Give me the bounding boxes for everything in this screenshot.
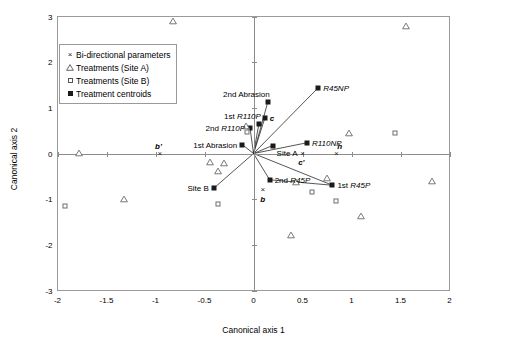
point-label: 2nd R110P xyxy=(206,124,245,133)
data-point-open-square xyxy=(392,131,397,136)
point-label: 2nd R45P xyxy=(275,175,311,184)
data-point-x-marker: × xyxy=(260,186,265,194)
y-tick-label: 2 xyxy=(36,58,53,67)
data-point-x-marker: × xyxy=(158,150,163,158)
x-tick-label: 0.5 xyxy=(297,296,308,305)
x-tick-label: -1.5 xyxy=(100,296,114,305)
legend-item-label: Bi-directional parameters xyxy=(76,50,170,60)
point-label: b' xyxy=(155,141,162,150)
data-point-centroid xyxy=(211,186,216,191)
legend-open-square-icon xyxy=(64,78,76,83)
legend-item-label: Treatments (Site B) xyxy=(76,76,149,86)
data-point-open-triangle xyxy=(220,159,228,166)
point-label: c' xyxy=(298,157,304,166)
data-point-open-triangle xyxy=(214,167,222,174)
data-point-open-square xyxy=(310,189,315,194)
x-tick-label: 2 xyxy=(447,296,451,305)
legend-x-icon: × xyxy=(64,50,76,59)
data-point-open-square xyxy=(245,129,250,134)
point-label: b xyxy=(260,195,265,204)
legend-item: Treatments (Site B) xyxy=(64,74,170,87)
data-point-open-triangle xyxy=(323,174,331,181)
data-point-x-marker: × xyxy=(334,150,339,158)
y-tick-label: 1 xyxy=(36,103,53,112)
data-point-open-triangle xyxy=(169,18,177,25)
legend-filled-square-icon xyxy=(64,91,76,96)
x-tick xyxy=(107,152,108,157)
point-label: Site A xyxy=(277,148,298,157)
y-tick-label: 0 xyxy=(36,149,53,158)
legend-item: Treatment centroids xyxy=(64,87,170,100)
data-point-open-triangle xyxy=(120,195,128,202)
y-tick-label: -2 xyxy=(36,240,53,249)
data-point-open-triangle xyxy=(345,129,353,136)
point-label: R45NP xyxy=(323,83,349,92)
point-label: 1st R110P xyxy=(224,112,261,121)
data-point-open-square xyxy=(216,201,221,206)
x-tick xyxy=(401,152,402,157)
data-point-open-triangle xyxy=(287,231,295,238)
legend-item: Treatments (Site A) xyxy=(64,61,170,74)
chart-canvas: -2-1.5-1-0.500.511.52-3-2-10123 ×××× b'c… xyxy=(0,0,507,347)
data-point-centroid xyxy=(304,140,309,145)
y-tick xyxy=(252,245,257,246)
data-point-centroid xyxy=(262,116,267,121)
x-tick xyxy=(156,152,157,157)
point-label: 1st Abrasion xyxy=(193,140,237,149)
point-label: c xyxy=(270,114,274,123)
x-tick xyxy=(450,152,451,157)
point-label: R110NP xyxy=(312,138,342,147)
x-tick xyxy=(58,152,59,157)
x-tick xyxy=(205,152,206,157)
data-point-centroid xyxy=(270,143,275,148)
y-tick xyxy=(252,62,257,63)
data-point-open-square xyxy=(334,199,339,204)
data-point-centroid xyxy=(316,85,321,90)
2nd-r45p-vector xyxy=(254,154,270,180)
point-label: 2nd Abrasion xyxy=(223,90,270,99)
data-point-centroid xyxy=(267,177,272,182)
y-axis-title: Canonical axis 2 xyxy=(9,99,19,219)
y-tick-label: 3 xyxy=(36,12,53,21)
y-tick xyxy=(252,199,257,200)
y-tick xyxy=(252,291,257,292)
data-point-open-square xyxy=(62,204,67,209)
data-point-centroid xyxy=(265,100,270,105)
x-tick-label: 0 xyxy=(251,296,255,305)
y-tick xyxy=(252,108,257,109)
y-tick-label: -1 xyxy=(36,195,53,204)
data-point-centroid xyxy=(330,183,335,188)
y-zero-axis xyxy=(254,17,255,291)
x-tick xyxy=(352,152,353,157)
legend: ×Bi-directional parametersTreatments (Si… xyxy=(59,44,177,104)
y-tick xyxy=(252,17,257,18)
legend-open-triangle-icon xyxy=(64,64,76,71)
x-axis-title: Canonical axis 1 xyxy=(0,325,507,335)
legend-item-label: Treatment centroids xyxy=(76,89,151,99)
x-tick-label: 1.5 xyxy=(395,296,406,305)
point-label: 1st R45P xyxy=(337,181,370,190)
data-point-centroid xyxy=(256,122,261,127)
x-tick-label: -2 xyxy=(54,296,61,305)
y-tick-label: -3 xyxy=(36,286,53,295)
point-label: Site B xyxy=(187,184,208,193)
x-tick-label: 1 xyxy=(349,296,353,305)
legend-item-label: Treatments (Site A) xyxy=(76,63,149,73)
data-point-open-triangle xyxy=(75,149,83,156)
data-point-open-triangle xyxy=(206,159,214,166)
data-point-centroid xyxy=(240,142,245,147)
legend-item: ×Bi-directional parameters xyxy=(64,48,170,61)
data-point-open-triangle xyxy=(357,212,365,219)
x-tick-label: -0.5 xyxy=(198,296,212,305)
data-point-open-triangle xyxy=(402,22,410,29)
data-point-open-triangle xyxy=(428,177,436,184)
x-tick-label: -1 xyxy=(152,296,159,305)
